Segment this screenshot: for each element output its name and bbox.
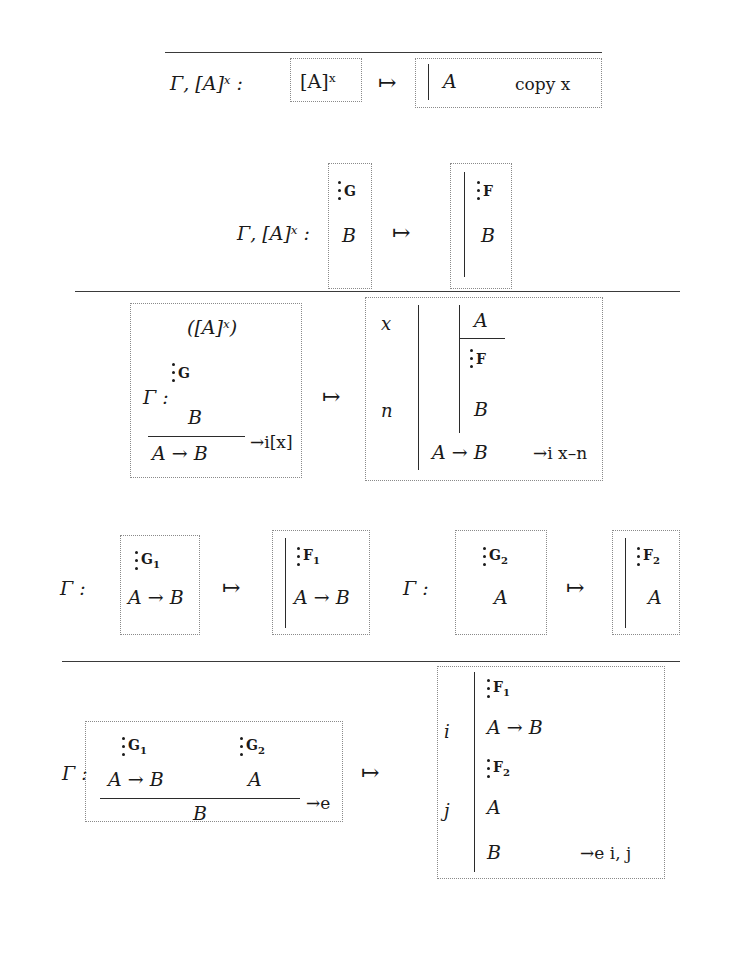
fitch-bar-imp-elim-left bbox=[285, 538, 286, 628]
imp-intro-target-conclusion: A → B bbox=[432, 443, 488, 462]
mapsto-icon-1: ↦ bbox=[378, 72, 396, 94]
derivation-label: F bbox=[476, 352, 486, 366]
vertical-dots-icon bbox=[470, 348, 475, 370]
vertical-dots-icon bbox=[297, 546, 302, 568]
vertical-dots-icon bbox=[240, 736, 245, 758]
imp-intro-target-subconclusion: B bbox=[474, 400, 488, 419]
imp-intro-inference-line bbox=[148, 436, 245, 437]
derivation-letter: F bbox=[303, 547, 313, 563]
imp-elim-source-derivation-left: G1 bbox=[122, 736, 147, 758]
imp-intro-line-label-x: x bbox=[381, 313, 391, 334]
imp-elim-source-minor-premise: A bbox=[248, 770, 262, 789]
imp-intro-source-premise: B bbox=[188, 408, 202, 427]
derivation-letter: G bbox=[489, 547, 501, 563]
derivation-subscript: 2 bbox=[501, 555, 508, 566]
derivation-letter: F bbox=[493, 679, 503, 695]
mapsto-icon-6: ↦ bbox=[361, 762, 379, 784]
assumption-rule-target-formula: B bbox=[481, 226, 495, 245]
derivation-subscript: 2 bbox=[653, 555, 660, 566]
vertical-dots-icon bbox=[487, 758, 492, 780]
derivation-label: G bbox=[344, 184, 356, 198]
figure-canvas: Γ, [A]ˣ : [A]ˣ ↦ A copy x Γ, [A]ˣ : G B … bbox=[0, 0, 755, 953]
copy-rule-target-formula: A bbox=[443, 72, 457, 91]
assumption-rule-target-derivation: F bbox=[477, 180, 493, 202]
derivation-label: F bbox=[483, 184, 493, 198]
imp-elim-left-target-derivation: F1 bbox=[297, 546, 320, 568]
imp-elim-right-context: Γ : bbox=[403, 577, 429, 599]
imp-elim-target-major-premise: A → B bbox=[487, 718, 543, 737]
derivation-label: G bbox=[178, 366, 190, 380]
imp-elim-target-derivation-1: F1 bbox=[487, 678, 510, 700]
mapsto-icon-5: ↦ bbox=[566, 577, 584, 599]
imp-intro-assumption-line bbox=[459, 338, 505, 339]
imp-elim-right-target-formula: A bbox=[648, 588, 662, 607]
derivation-label: F2 bbox=[643, 548, 660, 566]
vertical-dots-icon bbox=[477, 180, 482, 202]
imp-elim-source-conclusion: B bbox=[193, 804, 207, 823]
derivation-label: F1 bbox=[493, 680, 510, 698]
imp-elim-right-source-formula: A bbox=[494, 588, 508, 607]
derivation-letter: F bbox=[643, 547, 653, 563]
mapsto-icon-3: ↦ bbox=[322, 386, 340, 408]
fitch-bar-outer-imp-intro bbox=[418, 305, 419, 470]
imp-elim-line-label-i: i bbox=[444, 721, 450, 742]
fitch-bar-assumption bbox=[464, 172, 465, 277]
imp-elim-line-label-j: j bbox=[444, 800, 450, 821]
vertical-dots-icon bbox=[637, 546, 642, 568]
imp-elim-right-target-derivation: F2 bbox=[637, 546, 660, 568]
imp-intro-target-derivation: F bbox=[470, 348, 486, 370]
imp-intro-source-derivation: G bbox=[172, 362, 190, 384]
vertical-dots-icon bbox=[338, 180, 343, 202]
imp-elim-left-target-box bbox=[272, 530, 370, 635]
derivation-label: G1 bbox=[141, 552, 160, 570]
assumption-rule-source-derivation: G bbox=[338, 180, 356, 202]
imp-elim-right-source-derivation: G2 bbox=[483, 546, 508, 568]
imp-elim-source-justification: →e bbox=[306, 793, 330, 813]
imp-elim-target-derivation-2: F2 bbox=[487, 758, 510, 780]
copy-rule-context: Γ, [A]ˣ : bbox=[170, 72, 243, 94]
derivation-subscript: 2 bbox=[258, 745, 265, 756]
derivation-letter: G bbox=[128, 737, 140, 753]
derivation-letter: F bbox=[493, 759, 503, 775]
imp-intro-source-justification: →i[x] bbox=[250, 432, 293, 452]
derivation-label: G2 bbox=[246, 738, 265, 756]
vertical-dots-icon bbox=[135, 550, 140, 572]
derivation-letter: G bbox=[141, 551, 153, 567]
imp-intro-discharged-assumption: ([A]ˣ) bbox=[187, 318, 237, 337]
imp-elim-left-source-derivation: G1 bbox=[135, 550, 160, 572]
copy-rule-justification: copy x bbox=[515, 74, 570, 94]
derivation-letter: G bbox=[246, 737, 258, 753]
derivation-subscript: 1 bbox=[153, 559, 160, 570]
imp-elim-left-context: Γ : bbox=[60, 577, 86, 599]
derivation-subscript: 1 bbox=[313, 555, 320, 566]
imp-elim-inference-line bbox=[100, 798, 300, 799]
derivation-label: G1 bbox=[128, 738, 147, 756]
fitch-bar-imp-elim bbox=[474, 672, 475, 872]
imp-elim-context: Γ : bbox=[62, 762, 88, 784]
imp-elim-target-justification: →e i, j bbox=[580, 843, 631, 863]
fitch-bar-imp-elim-right bbox=[625, 538, 626, 628]
fitch-bar-copy bbox=[428, 64, 429, 100]
mapsto-icon-4: ↦ bbox=[222, 577, 240, 599]
vertical-dots-icon bbox=[487, 678, 492, 700]
imp-intro-source-conclusion: A → B bbox=[152, 444, 208, 463]
imp-elim-target-minor-premise: A bbox=[487, 798, 501, 817]
assumption-rule-context: Γ, [A]ˣ : bbox=[237, 222, 310, 244]
section-divider-top bbox=[165, 52, 602, 53]
imp-elim-left-source-formula: A → B bbox=[128, 588, 184, 607]
derivation-label: G2 bbox=[489, 548, 508, 566]
imp-intro-target-justification: →i x–n bbox=[533, 443, 587, 463]
mapsto-icon-2: ↦ bbox=[392, 222, 410, 244]
imp-intro-target-assumption: A bbox=[474, 311, 488, 330]
copy-rule-source: [A]ˣ bbox=[300, 72, 337, 91]
derivation-subscript: 2 bbox=[503, 767, 510, 778]
vertical-dots-icon bbox=[483, 546, 488, 568]
imp-elim-target-conclusion: B bbox=[487, 843, 501, 862]
section-divider-bottom bbox=[62, 661, 680, 662]
imp-elim-source-major-premise: A → B bbox=[108, 770, 164, 789]
derivation-label: F1 bbox=[303, 548, 320, 566]
derivation-subscript: 1 bbox=[503, 687, 510, 698]
section-divider-mid bbox=[75, 291, 680, 292]
imp-elim-source-derivation-right: G2 bbox=[240, 736, 265, 758]
imp-elim-left-source-box bbox=[120, 535, 200, 635]
